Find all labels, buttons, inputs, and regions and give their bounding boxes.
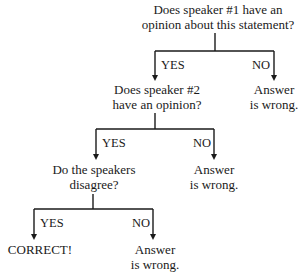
answer-wrong-1-line-1: Answer [250, 82, 298, 97]
question-1-line-2: opinion about this statement? [142, 17, 295, 32]
answer-wrong-2-line-1: Answer [190, 162, 238, 177]
q3-yes-arrowhead [31, 234, 37, 240]
edge-label-q2-yes: YES [102, 136, 126, 150]
q1-yes-arrowhead [152, 75, 158, 81]
answer-wrong-3-node: Answer is wrong. [131, 242, 179, 272]
connector-lines [0, 0, 304, 274]
answer-wrong-2-line-2: is wrong. [190, 177, 238, 192]
question-1-line-1: Does speaker #1 have an [142, 2, 295, 17]
q2-no-arrowhead [211, 154, 217, 160]
edge-label-q1-yes: YES [161, 58, 185, 72]
answer-wrong-3-line-1: Answer [131, 242, 179, 257]
edge-label-q2-no: NO [193, 136, 211, 150]
question-2-line-1: Does speaker #2 [113, 82, 202, 97]
question-3-line-1: Do the speakers [52, 162, 135, 177]
answer-wrong-3-line-2: is wrong. [131, 257, 179, 272]
question-1-node: Does speaker #1 have an opinion about th… [142, 2, 295, 32]
question-3-node: Do the speakers disagree? [52, 162, 135, 192]
decision-tree-diagram: Does speaker #1 have an opinion about th… [0, 0, 304, 274]
q1-no-arrowhead [271, 75, 277, 81]
answer-wrong-1-node: Answer is wrong. [250, 82, 298, 112]
edge-label-q3-yes: YES [40, 216, 64, 230]
q2-yes-arrowhead [93, 154, 99, 160]
edge-label-q1-no: NO [252, 58, 270, 72]
answer-wrong-1-line-2: is wrong. [250, 97, 298, 112]
correct-node: CORRECT! [8, 242, 72, 257]
question-2-node: Does speaker #2 have an opinion? [113, 82, 202, 112]
q3-no-arrowhead [150, 234, 156, 240]
question-3-line-2: disagree? [52, 177, 135, 192]
edge-label-q3-no: NO [132, 216, 150, 230]
answer-wrong-2-node: Answer is wrong. [190, 162, 238, 192]
question-2-line-2: have an opinion? [113, 97, 202, 112]
correct-label: CORRECT! [8, 242, 72, 257]
